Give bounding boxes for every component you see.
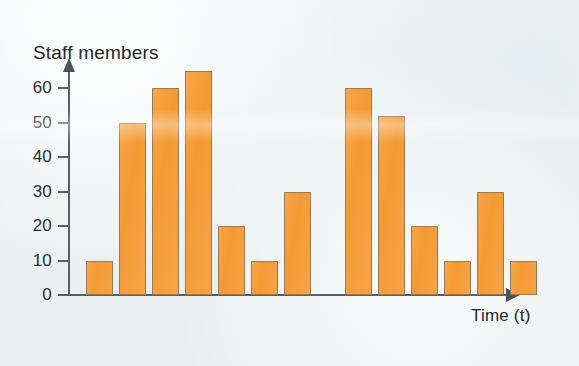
bar <box>185 71 212 295</box>
y-axis-tick <box>58 260 69 262</box>
chart-figure: Staff members 0102030405060 Time (t) <box>0 0 579 366</box>
bar <box>86 261 113 296</box>
y-axis-tick-label: 10 <box>33 252 52 269</box>
bar <box>444 261 471 296</box>
bar <box>378 116 405 295</box>
bar <box>477 192 504 296</box>
y-axis-tick <box>58 225 69 227</box>
y-axis-tick-label: 30 <box>33 183 52 200</box>
bar <box>284 192 311 296</box>
y-axis-tick-label: 60 <box>33 79 52 96</box>
y-axis-tick <box>58 156 69 158</box>
y-axis-tick <box>58 294 69 296</box>
y-axis-tick-label: 0 <box>42 286 52 303</box>
bar <box>411 226 438 295</box>
y-axis-tick-label: 20 <box>33 217 52 234</box>
y-axis-tick <box>58 87 69 89</box>
y-axis-tick-label: 40 <box>33 148 52 165</box>
bar <box>218 226 245 295</box>
y-axis-tick <box>58 191 69 193</box>
y-axis-tick-label: 50 <box>33 114 52 131</box>
bar <box>119 123 146 296</box>
x-axis-title: Time (t) <box>471 306 531 326</box>
arrow-up-icon <box>63 58 75 72</box>
bar <box>510 261 537 296</box>
bar-chart-plot-area: Staff members 0102030405060 Time (t) <box>0 0 579 366</box>
y-axis-tick <box>58 122 69 124</box>
y-axis-line <box>68 70 70 296</box>
bar <box>345 88 372 295</box>
y-axis-title: Staff members <box>33 42 159 64</box>
bar <box>152 88 179 295</box>
bar <box>251 261 278 296</box>
